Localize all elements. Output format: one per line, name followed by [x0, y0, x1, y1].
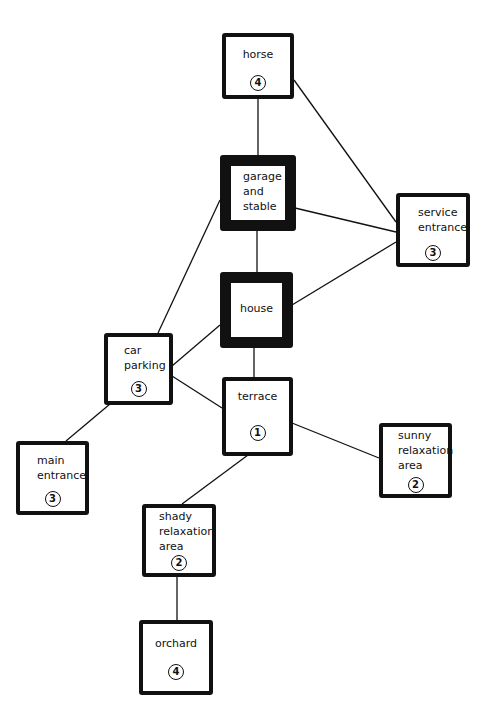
edge-garage-parking — [158, 200, 220, 333]
node-house: house — [220, 272, 293, 348]
node-label: car parking — [108, 343, 169, 373]
node-sunny-relaxation-area: sunny relaxation area 2 — [379, 423, 452, 498]
edge-garage-service — [295, 208, 396, 232]
relationship-diagram: horse 4 garage and stable service entran… — [0, 0, 496, 717]
connection-lines — [0, 0, 496, 717]
edge-terrace-shady — [182, 455, 248, 504]
node-label: shady relaxation area — [146, 509, 212, 554]
priority-badge: 4 — [168, 664, 184, 680]
node-label: sunny relaxation area — [383, 428, 448, 473]
edge-terrace-sunny — [292, 423, 379, 458]
priority-badge: 3 — [45, 491, 61, 507]
edge-parking-terrace — [172, 376, 222, 408]
node-orchard: orchard 4 — [139, 620, 213, 695]
edge-house-service — [292, 242, 396, 305]
priority-badge: 1 — [250, 425, 266, 441]
priority-badge: 3 — [131, 381, 147, 397]
priority-badge: 4 — [250, 75, 266, 91]
priority-badge: 2 — [171, 555, 187, 571]
priority-badge: 2 — [408, 477, 424, 493]
node-label: main entrance — [20, 453, 85, 483]
edge-parking-main — [66, 404, 110, 441]
node-terrace: terrace 1 — [222, 377, 293, 456]
node-service-entrance: service entrance 3 — [396, 193, 470, 267]
node-garage-and-stable: garage and stable — [220, 155, 296, 231]
priority-badge: 3 — [425, 245, 441, 261]
edge-horse-service — [294, 80, 396, 222]
node-main-entrance: main entrance 3 — [16, 441, 89, 515]
node-label: garage and stable — [231, 169, 285, 214]
node-label: terrace — [226, 389, 289, 404]
node-label: horse — [226, 47, 290, 62]
node-label: service entrance — [400, 205, 466, 235]
node-label: orchard — [143, 636, 209, 651]
node-label: house — [231, 301, 282, 316]
node-shady-relaxation-area: shady relaxation area 2 — [142, 504, 216, 577]
node-car-parking: car parking 3 — [104, 333, 173, 405]
edge-house-parking — [172, 325, 220, 366]
node-horse: horse 4 — [222, 33, 294, 99]
